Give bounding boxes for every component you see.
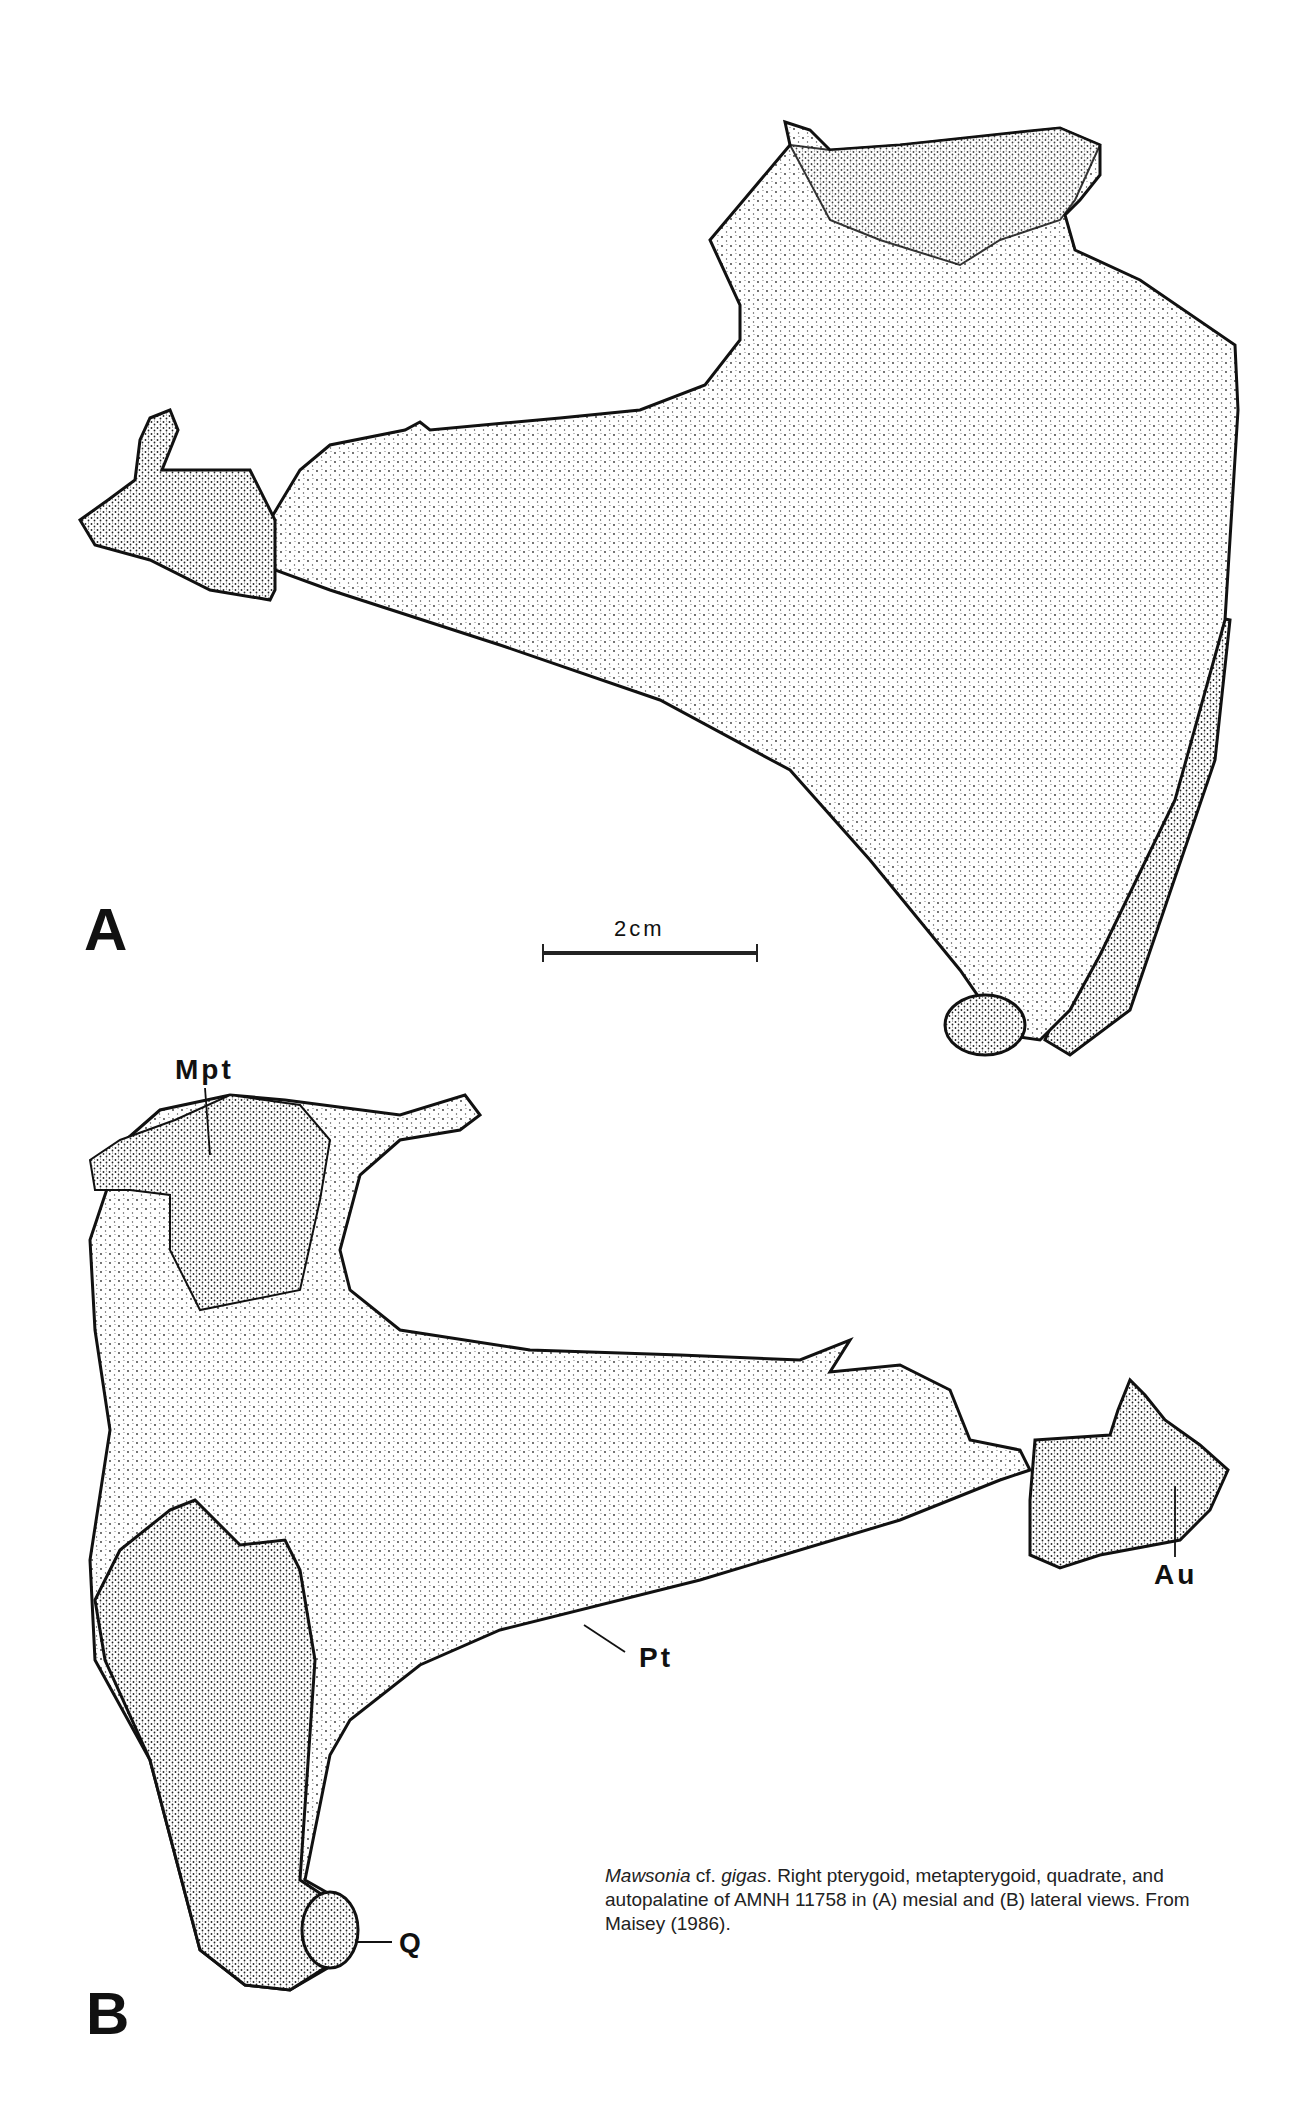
figure-caption: Mawsonia cf. gigas. Right pterygoid, met…: [605, 1864, 1245, 1936]
scale-bar-label: 2cm: [614, 918, 665, 940]
leader-pt: [584, 1625, 625, 1652]
label-autopalatine: Au: [1154, 1561, 1197, 1589]
label-pterygoid: Pt: [639, 1644, 673, 1672]
caption-species: gigas: [721, 1865, 766, 1886]
caption-genus: Mawsonia: [605, 1865, 691, 1886]
label-quadrate: Q: [399, 1929, 424, 1957]
pterygoid-a: [270, 122, 1238, 1040]
panel-label-a: A: [84, 900, 127, 960]
panel-label-b: B: [86, 1984, 129, 2044]
caption-cf: cf.: [691, 1865, 722, 1886]
label-metapterygoid: Mpt: [175, 1056, 234, 1084]
autopalatine-b: [1030, 1380, 1228, 1568]
scale-bar: [543, 944, 757, 962]
drawing-b-lateral-view: [90, 1095, 1228, 1990]
autopalatine-a: [80, 410, 275, 600]
